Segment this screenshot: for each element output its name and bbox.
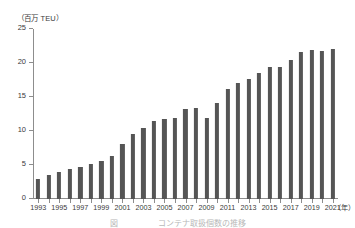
figure-caption: 図 コンテナ取扱個数の推移 [0,219,355,228]
y-tick-label-10: 10 [18,125,26,134]
bar-2020 [320,51,324,199]
bar-2014 [257,73,261,199]
x-label-2015: 2015 [262,203,278,213]
y-tick-label-0: 0 [22,193,26,202]
bar-1999 [99,161,103,199]
bar-2005 [162,119,166,199]
chart-figure: （百万 TEU） 0510152025 19931995199719992001… [0,0,355,228]
bar-2003 [141,128,145,199]
bar-1993 [36,179,40,199]
x-label-1999: 1999 [93,203,109,213]
x-tick-2006 [175,199,176,203]
x-tick-1997 [80,199,81,203]
x-axis-unit-label: （年） [334,203,355,213]
x-tick-2019 [312,199,313,203]
x-tick-2004 [154,199,155,203]
bar-2019 [310,50,314,199]
x-tick-1995 [59,199,60,203]
x-label-2019: 2019 [304,203,320,213]
bar-series [33,29,338,199]
x-label-2003: 2003 [135,203,151,213]
y-tick-label-5: 5 [22,159,26,168]
x-tick-1999 [101,199,102,203]
x-tick-2003 [143,199,144,203]
x-label-2011: 2011 [220,203,235,213]
x-tick-2002 [133,199,134,203]
bar-2008 [194,108,198,199]
bar-2013 [247,79,251,199]
plot-area: 0510152025 [33,29,338,199]
x-label-2009: 2009 [199,203,215,213]
bar-1994 [47,175,51,199]
x-tick-2007 [186,199,187,203]
x-tick-2012 [238,199,239,203]
y-axis-unit-label: （百万 TEU） [17,12,63,23]
y-tick-label-20: 20 [18,57,26,66]
bar-2011 [225,89,229,199]
bar-1998 [89,164,93,199]
x-tick-1996 [70,199,71,203]
bar-2018 [299,52,303,199]
x-tick-2005 [164,199,165,203]
x-tick-1994 [49,199,50,203]
x-tick-2014 [259,199,260,203]
x-tick-1998 [91,199,92,203]
bar-2012 [236,83,240,199]
x-tick-2013 [249,199,250,203]
x-tick-2010 [217,199,218,203]
bar-1997 [78,167,82,199]
x-tick-2008 [196,199,197,203]
x-tick-2001 [122,199,123,203]
x-tick-1993 [38,199,39,203]
bar-2007 [183,109,187,199]
x-tick-2015 [270,199,271,203]
bar-2009 [204,118,208,199]
bar-2016 [278,67,282,199]
bar-2002 [131,134,135,199]
bar-1995 [57,172,61,199]
x-label-1995: 1995 [51,203,67,213]
bar-2000 [110,156,114,199]
x-tick-2018 [301,199,302,203]
x-label-2005: 2005 [156,203,172,213]
x-tick-2016 [280,199,281,203]
x-tick-2009 [207,199,208,203]
x-label-1997: 1997 [72,203,88,213]
bar-2010 [215,103,219,199]
x-label-2013: 2013 [241,203,257,213]
bar-2015 [268,67,272,199]
y-tick-label-15: 15 [18,91,26,100]
bar-2004 [152,121,156,199]
x-tick-2021 [333,199,334,203]
x-axis-labels: 1993199519971999200120032005200720092011… [33,203,338,215]
x-label-2007: 2007 [178,203,194,213]
y-tick-label-25: 25 [18,23,26,32]
bar-2017 [289,60,293,199]
x-tick-2020 [322,199,323,203]
bar-1996 [68,169,72,199]
bar-2021 [331,49,335,199]
bar-2001 [120,144,124,199]
bar-2006 [173,118,177,199]
x-tick-2017 [291,199,292,203]
x-tick-2000 [112,199,113,203]
x-label-2017: 2017 [283,203,299,213]
x-tick-2011 [228,199,229,203]
x-label-1993: 1993 [30,203,46,213]
x-label-2001: 2001 [114,203,130,213]
